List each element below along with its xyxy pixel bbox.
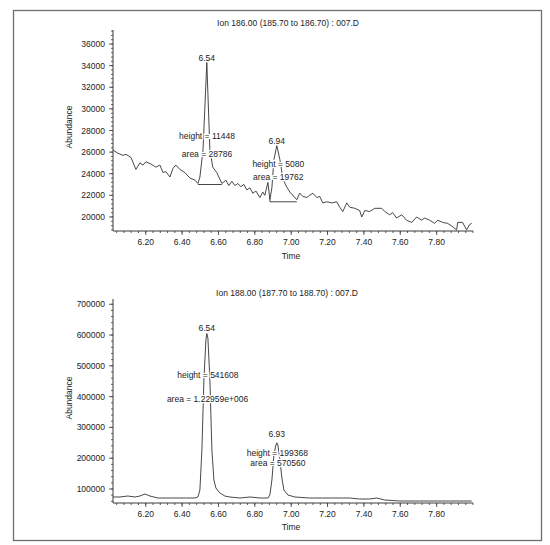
y-tick-label: 20000	[81, 212, 105, 222]
y-tick-label: 26000	[81, 147, 105, 157]
chart-title: Ion 188.00 (187.70 to 188.70) : 007.D	[216, 288, 358, 298]
x-tick-label: 6.80	[247, 237, 264, 247]
y-tick-label: 500000	[77, 361, 106, 371]
peak-annotation: 6.54	[199, 323, 216, 333]
x-tick-label: 7.60	[392, 237, 409, 247]
x-tick-label: 7.00	[283, 509, 300, 519]
x-tick-label: 6.60	[210, 237, 227, 247]
y-tick-label: 600000	[77, 330, 106, 340]
y-tick-label: 30000	[81, 104, 105, 114]
peak-annotation: area = 570560	[250, 458, 305, 468]
peak-annotation: 6.54	[199, 53, 216, 63]
x-axis-label: Time	[282, 251, 301, 261]
x-tick-label: 6.20	[137, 509, 154, 519]
x-tick-label: 7.80	[428, 509, 445, 519]
y-tick-label: 200000	[77, 453, 106, 463]
chart-title: Ion 186.00 (185.70 to 186.70) : 007.D	[217, 18, 359, 28]
y-tick-label: 400000	[77, 392, 106, 402]
y-tick-label: 300000	[77, 422, 106, 432]
y-tick-label: 36000	[81, 39, 105, 49]
peak-annotation: height = 11448	[179, 131, 235, 141]
x-tick-label: 6.60	[210, 509, 227, 519]
x-axis-label: Time	[282, 522, 301, 532]
y-axis-label: Abundance	[64, 376, 74, 419]
x-tick-label: 7.80	[428, 237, 445, 247]
y-tick-label: 24000	[81, 169, 105, 179]
x-tick-label: 6.20	[137, 237, 154, 247]
y-axis-label: Abundance	[64, 105, 74, 148]
y-tick-label: 34000	[81, 61, 105, 71]
peak-annotation: 6.93	[269, 429, 286, 439]
peak-annotation: area = 28786	[182, 149, 233, 159]
x-tick-label: 7.20	[319, 509, 336, 519]
peak-annotation: area = 1.22959e+006	[167, 394, 249, 404]
y-tick-label: 28000	[81, 126, 105, 136]
y-tick-label: 22000	[81, 190, 105, 200]
x-tick-label: 7.40	[356, 237, 373, 247]
x-tick-label: 6.40	[174, 237, 191, 247]
peak-annotation: area = 19762	[253, 172, 304, 182]
x-tick-label: 7.20	[319, 237, 336, 247]
y-tick-label: 100000	[77, 484, 106, 494]
peak-annotation: height = 199368	[247, 448, 308, 458]
peak-annotation: height = 5080	[252, 159, 304, 169]
x-tick-label: 7.60	[392, 509, 409, 519]
x-tick-label: 6.40	[174, 509, 191, 519]
x-tick-label: 7.00	[283, 237, 300, 247]
y-tick-label: 700000	[77, 299, 106, 309]
peak-annotation: height = 541608	[177, 370, 238, 380]
peak-annotation: 6.94	[269, 136, 286, 146]
x-tick-label: 7.40	[356, 509, 373, 519]
x-tick-label: 6.80	[247, 509, 264, 519]
y-tick-label: 32000	[81, 82, 105, 92]
chromatogram-figure: Ion 186.00 (185.70 to 186.70) : 007.D Ab…	[0, 0, 550, 545]
